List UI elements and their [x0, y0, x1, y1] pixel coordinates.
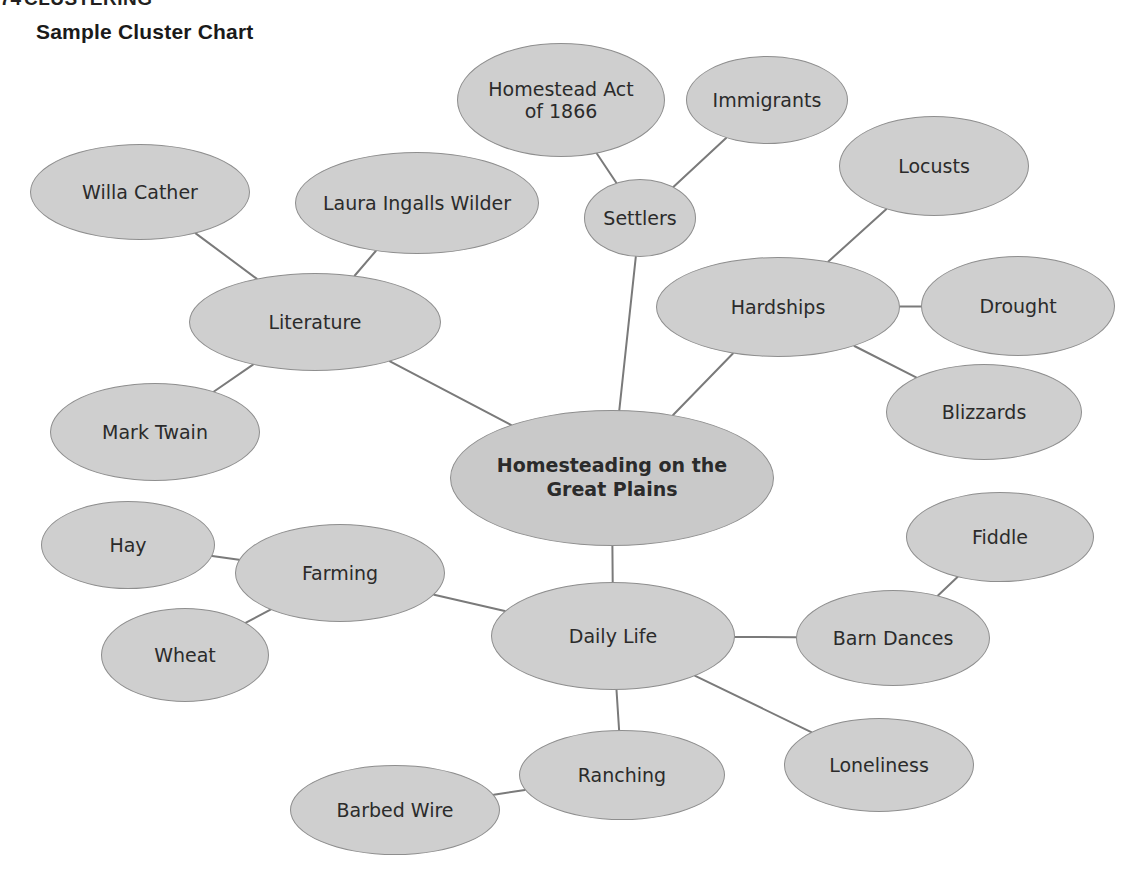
node-label-hay: Hay — [52, 534, 204, 556]
node-label-daily_life: Daily Life — [502, 625, 724, 647]
node-label-farming: Farming — [246, 562, 434, 584]
cluster-chart-page: 74 CLUSTERING Sample Cluster Chart Homes… — [0, 0, 1141, 889]
node-label-willa_cather: Willa Cather — [41, 181, 239, 203]
node-label-settlers: Settlers — [595, 207, 685, 229]
node-center[interactable]: Homesteading on theGreat Plains — [450, 410, 774, 546]
node-barbed_wire[interactable]: Barbed Wire — [290, 765, 500, 855]
node-loneliness[interactable]: Loneliness — [784, 718, 974, 812]
node-hay[interactable]: Hay — [41, 501, 215, 589]
node-blizzards[interactable]: Blizzards — [886, 364, 1082, 460]
node-willa_cather[interactable]: Willa Cather — [30, 144, 250, 240]
node-fiddle[interactable]: Fiddle — [906, 492, 1094, 582]
node-label-mark_twain: Mark Twain — [61, 421, 249, 443]
node-label-homestead_act: Homestead Actof 1866 — [468, 78, 654, 123]
node-label-blizzards: Blizzards — [897, 401, 1071, 423]
node-label-wheat: Wheat — [112, 644, 258, 666]
node-immigrants[interactable]: Immigrants — [686, 56, 848, 144]
node-label-hardships: Hardships — [667, 296, 889, 318]
node-locusts[interactable]: Locusts — [839, 116, 1029, 216]
node-label-center: Homesteading on theGreat Plains — [461, 454, 763, 502]
node-barn_dances[interactable]: Barn Dances — [796, 590, 990, 686]
node-label-laura_wilder: Laura Ingalls Wilder — [306, 192, 528, 214]
node-laura_wilder[interactable]: Laura Ingalls Wilder — [295, 152, 539, 254]
node-label-fiddle: Fiddle — [917, 526, 1083, 548]
node-label-ranching: Ranching — [530, 764, 714, 786]
node-label-locusts: Locusts — [850, 155, 1018, 177]
cluster-diagram: Homesteading on theGreat PlainsSettlersH… — [0, 0, 1141, 889]
node-label-immigrants: Immigrants — [697, 89, 837, 111]
node-hardships[interactable]: Hardships — [656, 257, 900, 357]
node-label-barn_dances: Barn Dances — [807, 627, 979, 649]
node-wheat[interactable]: Wheat — [101, 608, 269, 702]
node-ranching[interactable]: Ranching — [519, 730, 725, 820]
node-label-barbed_wire: Barbed Wire — [301, 799, 489, 821]
node-settlers[interactable]: Settlers — [584, 179, 696, 257]
node-label-drought: Drought — [932, 295, 1104, 317]
node-layer: Homesteading on theGreat PlainsSettlersH… — [0, 0, 1141, 889]
node-label-literature: Literature — [200, 311, 430, 333]
node-mark_twain[interactable]: Mark Twain — [50, 383, 260, 481]
node-label-loneliness: Loneliness — [795, 754, 963, 776]
node-farming[interactable]: Farming — [235, 524, 445, 622]
node-literature[interactable]: Literature — [189, 273, 441, 371]
node-drought[interactable]: Drought — [921, 256, 1115, 356]
node-homestead_act[interactable]: Homestead Actof 1866 — [457, 43, 665, 157]
node-daily_life[interactable]: Daily Life — [491, 582, 735, 690]
